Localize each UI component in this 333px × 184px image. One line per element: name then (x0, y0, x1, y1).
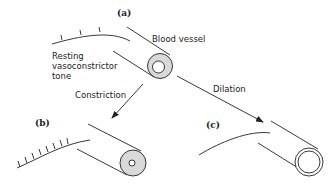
dilation-transition: Dilation (177, 76, 263, 122)
vessel-b-cross-section (120, 150, 146, 176)
panel-c-dilated: (c) (199, 120, 323, 176)
constriction-transition: Constriction (75, 84, 143, 118)
dilation-label: Dilation (213, 84, 246, 94)
resting-nerve-ticks (61, 27, 100, 40)
constriction-label: Constriction (75, 90, 126, 100)
vasoconstriction-diagram: (a) Blood vessel Resting vasoconstrictor… (0, 0, 333, 184)
vessel-c-cross-section (295, 148, 323, 176)
panel-a-label: (a) (117, 8, 131, 18)
constricted-nerve-ticks (18, 138, 68, 167)
resting-nerve-fiber (52, 35, 130, 44)
vessel-a-cross-section (148, 54, 173, 79)
vessel-c-top-wall (271, 121, 318, 149)
panel-b-label: (b) (35, 118, 50, 128)
resting-tone-label-line1: Resting (52, 51, 84, 61)
dilation-arrow (177, 76, 263, 122)
blood-vessel-label: Blood vessel (152, 34, 205, 44)
vessel-b-top-wall (88, 124, 141, 151)
panel-a-resting: (a) Blood vessel Resting vasoconstrictor… (52, 8, 205, 81)
vessel-b-bottom-wall (77, 149, 127, 175)
resting-tone-label-line3: tone (52, 71, 71, 81)
panel-c-label: (c) (206, 120, 220, 130)
resting-tone-label-line2: vasoconstrictor (52, 61, 118, 71)
panel-b-constricted: (b) (17, 118, 146, 176)
